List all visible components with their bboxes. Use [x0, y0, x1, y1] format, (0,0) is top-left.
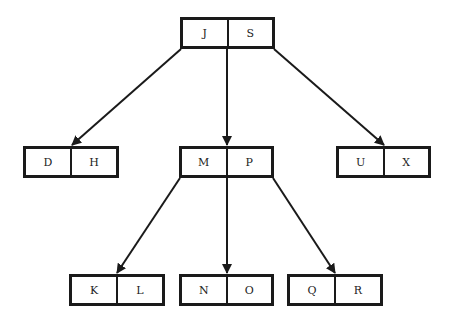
node-root: J S	[180, 17, 275, 49]
edge-root-to-left	[72, 49, 181, 145]
key: J	[183, 20, 227, 46]
edge-root-to-right	[274, 49, 384, 145]
key: O	[226, 277, 272, 303]
node-middle-left: K L	[69, 274, 165, 306]
key: R	[334, 277, 380, 303]
key: X	[383, 149, 429, 175]
node-middle-middle: N O	[179, 274, 274, 306]
edge-middle-to-middle-right	[273, 178, 335, 273]
b-tree-diagram: J S D H M P U X K L N O Q R	[0, 0, 454, 322]
key: M	[182, 149, 226, 175]
key: N	[182, 277, 226, 303]
node-right: U X	[336, 146, 431, 178]
key: L	[116, 277, 162, 303]
key: Q	[290, 277, 334, 303]
key: P	[226, 149, 272, 175]
key: K	[72, 277, 116, 303]
node-middle-right: Q R	[287, 274, 383, 306]
node-left: D H	[23, 146, 119, 178]
key: D	[26, 149, 70, 175]
node-middle: M P	[179, 146, 274, 178]
key: U	[339, 149, 383, 175]
key: S	[227, 20, 273, 46]
edge-middle-to-middle-left	[117, 178, 180, 273]
key: H	[70, 149, 116, 175]
